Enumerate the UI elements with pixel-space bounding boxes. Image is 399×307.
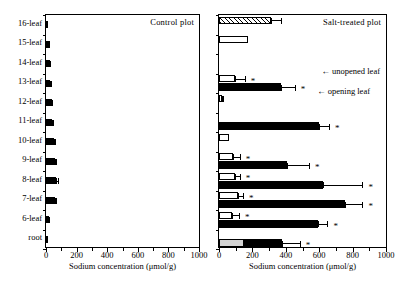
y-tick [43, 74, 46, 75]
y-tick [43, 93, 46, 94]
y-tick [43, 15, 46, 16]
significance-star-salt_treated-13-leaf: * [301, 86, 306, 92]
bar-salt_treated-15-leaf [219, 36, 248, 43]
error-bar-control-9-leaf [55, 161, 57, 162]
bar-salt_treated-16-leaf [219, 17, 271, 24]
y-label-root: root [28, 233, 42, 242]
bar-control-8-leaf [46, 177, 56, 184]
significance-star-salt_treated-11-leaf: * [335, 125, 340, 131]
error-bar-salt_treated-9-leaf [287, 165, 310, 166]
x-tick-label-400: 400 [90, 250, 124, 260]
bar-salt_treated-11-leaf [219, 122, 319, 130]
error-bar-salt_treated-8-leaf [323, 185, 363, 186]
x-tick-label-1000: 1000 [369, 250, 399, 260]
bar-salt_treated-13-leaf [219, 75, 235, 82]
x-axis-label: Sodium concentration (μmol/g) [218, 261, 387, 271]
x-tick-label-600: 600 [302, 250, 336, 260]
y-tick [216, 230, 219, 231]
plot-area-control [46, 15, 199, 247]
y-tick [43, 171, 46, 172]
y-label-15-leaf: 15-leaf [18, 38, 42, 47]
bar-control-16-leaf [46, 21, 48, 28]
bar-salt_treated-6-leaf [219, 212, 232, 219]
error-bar-control-10-leaf [54, 142, 56, 143]
bar-salt_treated-6-leaf [219, 220, 318, 228]
y-tick [43, 152, 46, 153]
bar-control-15-leaf [46, 41, 50, 48]
error-bar-control-14-leaf [50, 64, 51, 65]
x-axis-salt: 02004006008001000Sodium concentration (μ… [218, 248, 387, 272]
bar-control-root [46, 236, 48, 243]
bar-salt_treated-13-leaf [219, 83, 281, 91]
error-bar-control-7-leaf [55, 200, 57, 201]
bar-salt_treated-7-leaf [219, 192, 238, 199]
bar-salt_treated-8-leaf [219, 181, 323, 189]
bar-salt_treated-9-leaf [219, 161, 287, 169]
bar-control-9-leaf [46, 158, 55, 165]
significance-star-salt_treated-7-leaf: * [368, 203, 373, 209]
bar-salt_treated-8-leaf [219, 173, 235, 180]
y-tick [43, 54, 46, 55]
x-tick-label-0: 0 [202, 250, 236, 260]
error-bar-salt_treated-8-leaf [235, 176, 241, 177]
bar-salt_treated-10-leaf [219, 134, 229, 141]
y-label-7-leaf: 7-leaf [22, 194, 42, 203]
y-tick [43, 35, 46, 36]
x-tick-label-600: 600 [121, 250, 155, 260]
y-tick [43, 113, 46, 114]
error-bar-salt_treated-13-leaf [281, 87, 296, 88]
significance-star-salt_treated-6-leaf: * [333, 223, 338, 229]
error-bar-salt_treated-9-leaf [233, 157, 241, 158]
x-tick-label-800: 800 [151, 250, 185, 260]
bar-control-10-leaf [46, 138, 54, 145]
error-bar-control-8-leaf [56, 181, 58, 182]
y-tick [43, 191, 46, 192]
error-bar-salt_treated-13-leaf [235, 79, 246, 80]
x-tick-label-200: 200 [235, 250, 269, 260]
y-label-13-leaf: 13-leaf [18, 77, 42, 86]
error-bar-salt_treated-11-leaf [319, 126, 330, 127]
y-label-9-leaf: 9-leaf [22, 155, 42, 164]
y-label-16-leaf: 16-leaf [18, 19, 42, 28]
error-bar-salt_treated-7-leaf [238, 196, 244, 197]
error-bar-salt_treated-16-leaf [271, 20, 282, 21]
x-tick-label-200: 200 [60, 250, 94, 260]
annotation-unopened-leaf: ← unopened leaf [321, 66, 380, 76]
y-tick [216, 54, 219, 55]
plot-area-salt: ************* [219, 15, 386, 247]
bar-salt_treated-root [219, 239, 244, 247]
x-axis-label: Sodium concentration (μmol/g) [45, 261, 200, 271]
significance-star-salt_treated-8-leaf: * [368, 184, 373, 190]
y-axis-category-labels: 16-leaf15-leaf14-leaf13-leaf12-leaf11-le… [0, 14, 42, 248]
annotation-opening-leaf: ← opening leaf [317, 86, 370, 96]
significance-star-salt_treated-9-leaf: * [315, 164, 320, 170]
y-label-8-leaf: 8-leaf [22, 175, 42, 184]
y-label-14-leaf: 14-leaf [18, 58, 42, 67]
error-bar-control-13-leaf [50, 83, 52, 84]
error-bar-control-6-leaf [49, 220, 50, 221]
y-label-6-leaf: 6-leaf [22, 214, 42, 223]
error-bar-salt_treated-12-leaf [222, 98, 224, 99]
bar-salt_treated-7-leaf [219, 200, 345, 208]
error-bar-control-12-leaf [52, 103, 54, 104]
y-label-10-leaf: 10-leaf [18, 136, 42, 145]
panel-salt-treated-plot: Salt-treated plot ************* ← unopen… [218, 14, 387, 248]
x-tick-label-800: 800 [336, 250, 370, 260]
y-tick [216, 113, 219, 114]
error-bar-salt_treated-root [244, 243, 252, 244]
x-axis-control: 02004006008001000Sodium concentration (μ… [45, 248, 200, 272]
y-tick [43, 132, 46, 133]
y-tick [43, 210, 46, 211]
y-label-12-leaf: 12-leaf [18, 97, 42, 106]
error-bar-control-11-leaf [52, 122, 53, 123]
panel-control-plot: Control plot [45, 14, 200, 248]
bar-control-7-leaf [46, 197, 55, 204]
bar-salt_treated-9-leaf [219, 153, 233, 160]
y-tick [43, 230, 46, 231]
error-bar-salt_treated-root [282, 243, 300, 244]
y-label-11-leaf: 11-leaf [18, 116, 42, 125]
x-tick-label-400: 400 [269, 250, 303, 260]
x-tick-label-0: 0 [29, 250, 63, 260]
error-bar-salt_treated-6-leaf [232, 215, 240, 216]
